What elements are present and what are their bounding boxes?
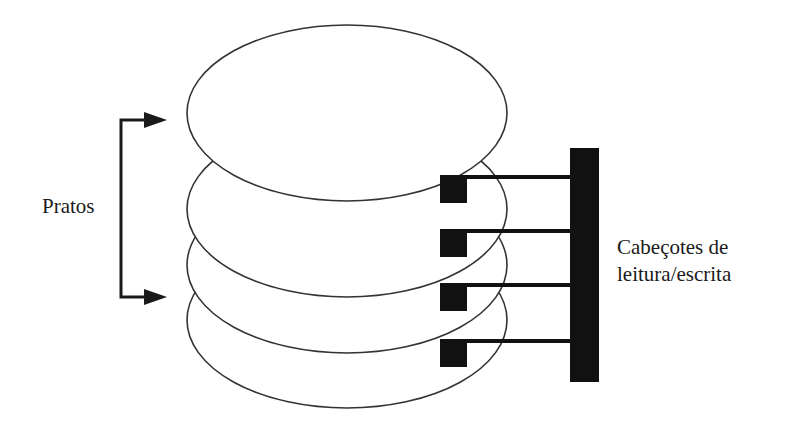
head-4 [440,339,572,367]
head-block-icon [440,229,467,257]
head-block-icon [440,339,467,367]
hard-disk-diagram [0,0,786,427]
heads-label-line-2: leitura/escrita [617,261,731,288]
platters-bracket [121,120,150,297]
arrow-right-icon [144,112,167,128]
platters-label: Pratos [42,193,95,220]
head-block-icon [440,175,467,203]
actuator-bar [570,148,599,382]
heads-label-line-1: Cabeçotes de [617,234,731,261]
heads-label: Cabeçotes de leitura/escrita [617,234,731,288]
arrow-right-icon [144,289,167,305]
platter-1 [187,25,507,201]
head-block-icon [440,283,467,311]
